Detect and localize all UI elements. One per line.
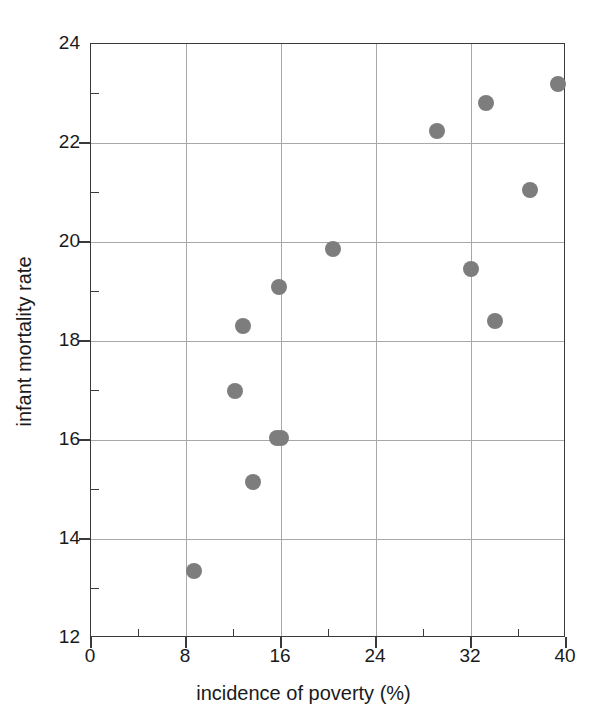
data-point [463, 261, 479, 277]
x-tick-label: 24 [345, 645, 405, 667]
data-point [487, 313, 503, 329]
scatter-plot-figure: 0816243240 12141618202224 incidence of p… [0, 0, 607, 726]
data-point [227, 383, 243, 399]
data-point [478, 95, 494, 111]
x-tick-label: 16 [250, 645, 310, 667]
y-tick-minor [90, 291, 99, 293]
y-tick-label: 24 [24, 32, 80, 54]
gridline-vertical [186, 44, 187, 636]
y-tick-major [79, 439, 90, 441]
y-tick-major [79, 538, 90, 540]
y-tick-label: 22 [24, 131, 80, 153]
gridline-vertical [281, 44, 282, 636]
y-tick-minor [90, 390, 99, 392]
data-point [550, 76, 566, 92]
data-point [325, 241, 341, 257]
x-tick-minor [233, 629, 235, 637]
gridline-horizontal [91, 440, 564, 441]
data-point [522, 182, 538, 198]
gridline-vertical [376, 44, 377, 636]
data-point [186, 563, 202, 579]
y-tick-minor [90, 588, 99, 590]
data-point [235, 318, 251, 334]
x-tick-minor [138, 629, 140, 637]
y-tick-minor [90, 93, 99, 95]
gridline-horizontal [91, 143, 564, 144]
y-axis-title: infant mortality rate [13, 232, 36, 452]
x-tick-minor [423, 629, 425, 637]
y-tick-major [79, 241, 90, 243]
x-tick-minor [328, 629, 330, 637]
y-tick-label: 14 [24, 527, 80, 549]
y-tick-minor [90, 192, 99, 194]
x-tick-label: 32 [440, 645, 500, 667]
x-tick-label: 0 [60, 645, 120, 667]
x-tick-label: 40 [535, 645, 595, 667]
data-point [273, 430, 289, 446]
x-tick-label: 8 [155, 645, 215, 667]
y-tick-minor [90, 489, 99, 491]
gridline-vertical [471, 44, 472, 636]
y-tick-major [79, 340, 90, 342]
y-tick-major [79, 142, 90, 144]
gridline-horizontal [91, 539, 564, 540]
x-tick-minor [518, 629, 520, 637]
data-point [271, 279, 287, 295]
gridline-horizontal [91, 341, 564, 342]
x-axis-title: incidence of poverty (%) [0, 682, 607, 705]
y-tick-label: 12 [24, 626, 80, 648]
data-point [245, 474, 261, 490]
plot-area [90, 43, 565, 637]
data-point [429, 123, 445, 139]
